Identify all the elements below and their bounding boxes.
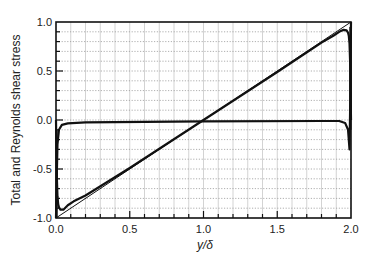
x-tick-label: 0.0	[48, 223, 63, 235]
y-tick-label: 0.0	[37, 114, 52, 126]
x-tick-label: 0.5	[122, 223, 137, 235]
chart: 0.00.51.01.52.0 -1.0-0.50.00.51.0 y/δ To…	[0, 0, 377, 270]
y-axis-title: Total and Reynolds shear stress	[9, 35, 23, 206]
x-axis-title: y/δ	[196, 238, 213, 252]
y-tick-label: 1.0	[37, 16, 52, 28]
y-tick-label: 0.5	[37, 65, 52, 77]
y-tick-label: -1.0	[33, 212, 52, 224]
x-tick-label: 2.0	[343, 223, 358, 235]
y-tick-labels: -1.0-0.50.00.51.0	[33, 16, 52, 224]
x-tick-label: 1.5	[270, 223, 285, 235]
x-tick-label: 1.0	[196, 223, 211, 235]
x-tick-labels: 0.00.51.01.52.0	[48, 223, 358, 235]
y-tick-label: -0.5	[33, 163, 52, 175]
